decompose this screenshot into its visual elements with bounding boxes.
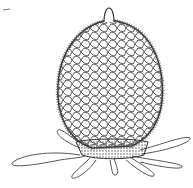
- illustration: [0, 0, 193, 188]
- basal-collar: [76, 139, 148, 159]
- organism-drawing: [0, 0, 193, 188]
- apex-knob: [104, 8, 114, 22]
